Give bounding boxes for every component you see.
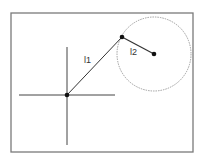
elbow-joint bbox=[120, 35, 125, 40]
diagram-canvas: l1 l2 bbox=[0, 0, 206, 162]
base-joint bbox=[65, 93, 70, 98]
link-1-label: l1 bbox=[84, 55, 91, 65]
frame-border bbox=[11, 13, 193, 152]
link-1 bbox=[67, 37, 122, 95]
link-2 bbox=[122, 37, 154, 54]
link-2-label: l2 bbox=[130, 47, 137, 57]
end-effector bbox=[152, 52, 157, 57]
